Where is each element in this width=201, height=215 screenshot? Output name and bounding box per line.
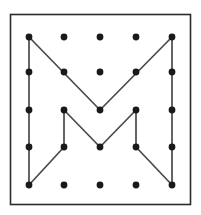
peg-dot-r3-c3[interactable] — [97, 107, 104, 114]
peg-dot-r2-c5[interactable] — [169, 69, 176, 76]
peg-dot-r5-c4[interactable] — [133, 182, 140, 189]
peg-dot-r1-c5[interactable] — [169, 34, 176, 41]
peg-dot-r4-c1[interactable] — [26, 144, 33, 151]
peg-dot-r4-c3[interactable] — [97, 144, 104, 151]
peg-dot-r2-c3[interactable] — [97, 69, 104, 76]
peg-dot-r5-c2[interactable] — [61, 182, 68, 189]
peg-dot-r3-c4[interactable] — [133, 107, 140, 114]
geoboard-figure — [0, 0, 201, 215]
peg-dot-r4-c5[interactable] — [169, 144, 176, 151]
peg-dot-r1-c2[interactable] — [61, 34, 68, 41]
geoboard-canvas — [0, 0, 201, 215]
peg-dot-r2-c4[interactable] — [133, 69, 140, 76]
peg-dot-r5-c1[interactable] — [26, 182, 33, 189]
peg-dot-r4-c4[interactable] — [133, 144, 140, 151]
peg-dot-r3-c2[interactable] — [61, 107, 68, 114]
peg-dot-r1-c1[interactable] — [26, 34, 33, 41]
peg-dot-r5-c3[interactable] — [97, 182, 104, 189]
peg-dot-r1-c3[interactable] — [97, 34, 104, 41]
peg-dot-r5-c5[interactable] — [169, 182, 176, 189]
peg-dot-r4-c2[interactable] — [61, 144, 68, 151]
peg-dot-r3-c1[interactable] — [26, 107, 33, 114]
peg-dot-r1-c4[interactable] — [133, 34, 140, 41]
peg-dot-r2-c2[interactable] — [61, 69, 68, 76]
peg-dot-r2-c1[interactable] — [26, 69, 33, 76]
peg-dot-r3-c5[interactable] — [169, 107, 176, 114]
